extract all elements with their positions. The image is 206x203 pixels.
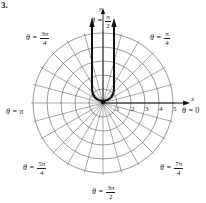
polar-graph-figure: 3. y x 1 2 3 4 5 θ = 0 θ = π4 θ = π2 θ =… xyxy=(0,0,206,203)
tick-5: 5 xyxy=(173,105,177,113)
pole-dot xyxy=(101,100,105,104)
polar-spoke xyxy=(52,103,103,154)
curve-right-arrow-icon xyxy=(111,18,116,27)
angle-label-0: θ = 0 xyxy=(182,107,199,115)
angle-label-pi: θ = π xyxy=(6,108,23,116)
angle-label-3pi-4: θ = 3π4 xyxy=(26,30,49,47)
tick-2: 2 xyxy=(131,105,135,113)
tick-4: 4 xyxy=(159,105,163,113)
x-axis-label: x xyxy=(191,95,194,103)
angle-label-3pi-2: θ = 3π2 xyxy=(92,184,115,201)
x-axis-arrow-icon xyxy=(183,101,190,106)
angle-label-5pi-4: θ = 5π4 xyxy=(23,160,46,177)
tick-3: 3 xyxy=(145,105,149,113)
angle-label-7pi-4: θ = 7π4 xyxy=(160,160,183,177)
tick-1: 1 xyxy=(116,105,120,113)
angle-label-pi-4: θ = π4 xyxy=(150,30,170,47)
y-axis-label: y xyxy=(99,5,102,13)
polar-spoke xyxy=(52,52,103,103)
angle-label-pi-2: θ = π2 xyxy=(91,13,111,30)
polar-spoke xyxy=(103,52,154,103)
